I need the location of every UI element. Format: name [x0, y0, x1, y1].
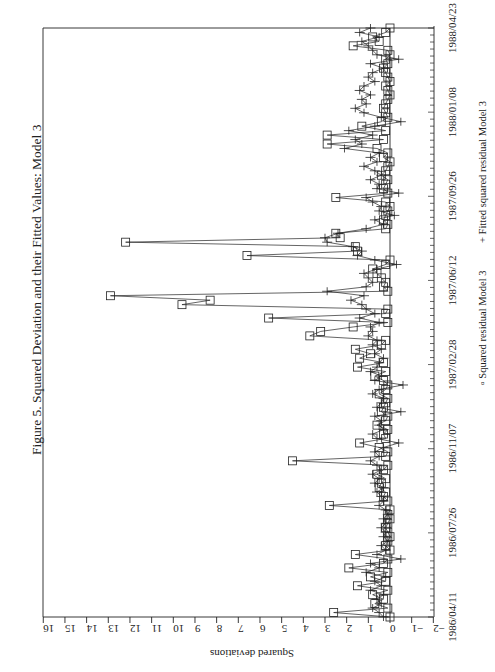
date-tick-label: 1988/04/23	[446, 2, 458, 53]
value-tick-label: 6	[259, 623, 265, 635]
plus-marker-icon	[365, 60, 375, 68]
plus-marker-icon	[368, 69, 378, 77]
plus-marker-icon	[355, 28, 365, 36]
plus-marker-icon	[361, 225, 371, 233]
plus-marker-icon	[357, 95, 367, 103]
value-tick-label: 12	[130, 623, 141, 635]
value-tick-label: 8	[216, 623, 222, 635]
plus-marker-icon: +	[477, 234, 488, 243]
plus-marker-icon	[346, 296, 356, 304]
value-tick-label: −1	[412, 623, 424, 635]
plus-marker-icon	[376, 600, 386, 608]
plus-marker-icon	[394, 55, 404, 63]
value-tick-label: 2	[347, 623, 353, 635]
value-tick-label: 13	[108, 623, 120, 635]
plus-marker-icon	[355, 314, 365, 322]
plus-marker-icon	[365, 559, 375, 567]
value-tick-label: 0	[390, 623, 396, 635]
legend-item-fitted-squared-residual: + Fitted squared residual Model 3	[477, 101, 488, 243]
plus-marker-icon	[370, 256, 380, 264]
plus-marker-icon	[322, 287, 332, 295]
date-tick-label: 1986/07/26	[446, 507, 458, 558]
value-tick-label: 14	[86, 623, 98, 635]
value-tick-label: −2	[433, 623, 445, 635]
chart-title: Figure 5. Squared Deviation and their Fi…	[29, 125, 45, 455]
plus-marker-icon	[322, 238, 332, 246]
date-tick-label: 1987/09/26	[446, 171, 458, 222]
plus-marker-icon	[363, 274, 373, 282]
plus-marker-icon	[396, 408, 406, 416]
series-fitted-squared-residual	[320, 24, 408, 621]
plus-marker-icon	[374, 207, 384, 215]
chart-canvas: 161514131211109876543210−1−2 1986/04/111…	[0, 0, 495, 672]
plus-marker-icon	[365, 176, 375, 184]
plus-marker-icon	[378, 354, 388, 362]
value-tick-label: 11	[152, 623, 163, 635]
plus-marker-icon	[352, 252, 362, 260]
plus-marker-icon	[359, 162, 369, 170]
date-tick-label: 1986/04/11	[446, 592, 458, 642]
value-axis-label: Squared deviations	[210, 648, 294, 660]
value-tick-label: 7	[238, 623, 244, 635]
value-tick-label: 3	[324, 623, 330, 635]
plus-marker-icon	[361, 305, 371, 313]
date-tick-label: 1988/01/08	[446, 87, 458, 138]
plus-marker-icon	[361, 100, 371, 108]
value-tick-label: 5	[281, 623, 287, 635]
plus-marker-icon	[368, 327, 378, 335]
plus-marker-icon	[396, 118, 406, 126]
legend-label: Fitted squared residual Model 3	[477, 101, 488, 235]
value-tick-label: 9	[194, 623, 200, 635]
plus-marker-icon	[359, 269, 369, 277]
date-tick-label: 1987/02/28	[446, 339, 458, 390]
date-tick-label: 1987/06/12	[446, 255, 458, 305]
plus-marker-icon	[365, 91, 375, 99]
plus-marker-icon	[398, 381, 408, 389]
value-tick-label: 1	[368, 623, 374, 635]
plus-marker-icon	[357, 301, 367, 309]
date-tick-label: 1986/11/07	[446, 423, 458, 473]
value-tick-label: 16	[43, 623, 55, 635]
plus-marker-icon	[389, 211, 399, 219]
plus-marker-icon	[394, 189, 404, 197]
value-axis: 161514131211109876543210−1−2	[43, 617, 445, 635]
plus-marker-icon	[359, 82, 369, 90]
plus-marker-icon	[368, 46, 378, 54]
value-tick-label: 10	[173, 623, 185, 635]
plus-marker-icon	[359, 109, 369, 117]
plus-marker-icon	[372, 185, 382, 193]
square-marker-icon: ▫	[477, 379, 488, 385]
value-tick-label: 4	[303, 623, 309, 635]
legend-label: Squared residual Model 3	[477, 270, 488, 378]
plus-marker-icon	[368, 430, 378, 438]
plus-marker-icon	[394, 439, 404, 447]
plus-marker-icon	[365, 24, 375, 32]
plus-marker-icon	[370, 216, 380, 224]
date-axis: 1986/04/111986/07/261986/11/071987/02/28…	[428, 2, 458, 641]
plus-marker-icon	[372, 435, 382, 443]
legend-item-squared-residual: ▫ Squared residual Model 3	[477, 270, 488, 385]
plus-marker-icon	[355, 86, 365, 94]
plus-marker-icon	[374, 33, 384, 41]
value-tick-label: 15	[64, 623, 76, 635]
plus-marker-icon	[368, 341, 378, 349]
plus-marker-icon	[368, 131, 378, 139]
plus-marker-icon	[359, 292, 369, 300]
plus-marker-icon	[372, 51, 382, 59]
plus-marker-icon	[392, 260, 402, 268]
series-squared-residual	[106, 24, 394, 621]
plus-marker-icon	[350, 104, 360, 112]
plus-marker-icon	[363, 332, 373, 340]
plus-marker-icon	[396, 555, 406, 563]
